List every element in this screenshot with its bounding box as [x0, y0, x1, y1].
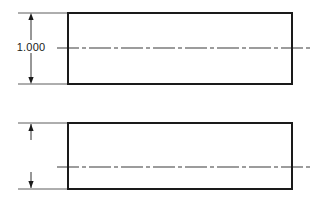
dimension-arrow-down	[28, 77, 33, 84]
dimension-arrow-down	[28, 181, 33, 188]
dimension-arrow-up	[28, 13, 33, 20]
lower-view	[18, 123, 312, 189]
dimension-label: 1.000	[17, 41, 46, 53]
upper-view: 1.000	[17, 13, 312, 84]
view-outline-rectangle	[68, 123, 292, 189]
engineering-drawing-canvas: 1.000	[0, 0, 322, 200]
dimension-arrow-up	[28, 124, 33, 131]
drawing-svg-root: 1.000	[0, 0, 322, 200]
